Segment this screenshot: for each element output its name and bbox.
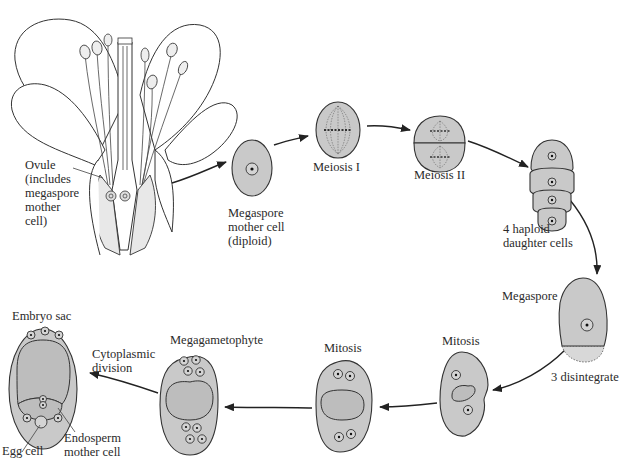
- label-megaspore-mother-cell: Megaspore mother cell (diploid): [228, 206, 285, 248]
- label-haploid-cells: 4 haploid daughter cells: [503, 222, 573, 250]
- label-disintegrate: 3 disintegrate: [551, 370, 619, 384]
- label-endosperm-mother-cell: Endosperm mother cell: [64, 431, 121, 459]
- mitosis-1-cell: [440, 352, 488, 436]
- label-megaspore: Megaspore: [502, 289, 558, 303]
- ovule-left: [106, 191, 116, 201]
- label-ovule: Ovule (includes megaspore mother cell): [25, 158, 79, 228]
- label-embryo-sac: Embryo sac: [12, 309, 71, 323]
- megagametophyte-cell: [160, 356, 218, 455]
- label-cytoplasmic-division: Cytoplasmic division: [92, 347, 155, 375]
- egg-cell: [35, 416, 47, 428]
- label-meiosis-1: Meiosis I: [313, 160, 360, 174]
- megaspore-mother-cell: [232, 140, 272, 196]
- mitosis-2-cell: [316, 361, 372, 452]
- label-megagametophyte: Megagametophyte: [170, 333, 263, 347]
- label-meiosis-2: Meiosis II: [414, 168, 465, 182]
- label-egg-cell: Egg cell: [2, 444, 43, 458]
- label-mitosis-2: Mitosis: [324, 341, 362, 355]
- label-mitosis-1: Mitosis: [442, 334, 480, 348]
- meiosis-1-cell: [316, 102, 360, 158]
- four-haploid-cells: [530, 140, 574, 231]
- megaspore-cell: [559, 278, 607, 362]
- meiosis-2-cell: [414, 116, 465, 172]
